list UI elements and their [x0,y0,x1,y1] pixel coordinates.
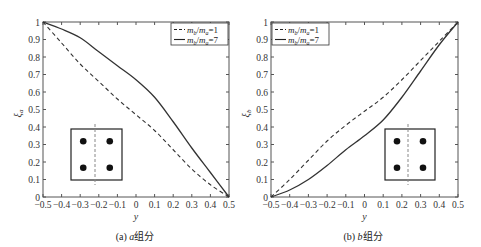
y-tick-label: 0.8 [28,53,40,63]
rebar-dot [80,164,87,171]
x-tick-label: −0.4 [281,200,298,210]
x-tick-label: 0.4 [204,200,216,210]
x-tick-label: 0 [362,200,367,210]
x-axis-label: y [133,211,139,222]
cross-section-inset [385,124,435,185]
y-tick-label: 0.6 [256,88,268,98]
x-tick-label: 0.1 [377,200,389,210]
y-tick-label: 0.2 [28,158,40,168]
rebar-dot [80,138,87,145]
x-tick-label: 0.2 [396,200,408,210]
y-axis-label: ξb [240,109,253,117]
y-tick-label: 0 [263,193,268,203]
rebar-dot [420,138,427,145]
x-tick-label: −0.1 [109,200,126,210]
y-tick-label: 0.8 [256,53,268,63]
y-tick-label: 0.9 [28,35,40,45]
y-tick-label: 0.3 [256,140,268,150]
panel-b: −0.5−0.4−0.3−0.2−0.100.10.20.30.40.500.1… [240,18,464,244]
x-tick-label: 0.3 [415,200,427,210]
panel-a: −0.5−0.4−0.3−0.2−0.100.10.20.30.40.500.1… [12,18,235,244]
x-tick-label: 0.5 [223,200,235,210]
y-tick-label: 0.4 [256,123,268,133]
x-tick-label: −0.2 [318,200,335,210]
rebar-dot [106,164,113,171]
y-axis-label: ξa [12,109,25,117]
y-tick-label: 0.4 [28,123,40,133]
series-line-dashed [271,22,458,197]
rebar-dot [106,138,113,145]
x-tick-label: −0.2 [90,200,107,210]
legend: mb/ma=1mb/ma=7 [272,23,329,46]
x-tick-label: 0.2 [167,200,179,210]
x-tick-label: 0.1 [149,200,161,210]
inset-square [71,129,122,180]
chart-figure: −0.5−0.4−0.3−0.2−0.100.10.20.30.40.500.1… [0,0,481,247]
rebar-dot [394,138,401,145]
y-tick-label: 1 [263,18,268,28]
x-tick-label: 0.3 [186,200,198,210]
panel-caption: (a) a组分 [116,230,155,243]
y-tick-label: 0 [35,193,40,203]
x-tick-label: −0.3 [72,200,89,210]
inset-square [385,129,435,180]
x-tick-label: 0.5 [452,200,464,210]
y-tick-label: 0.6 [28,88,40,98]
y-tick-label: 0.5 [28,105,40,115]
y-tick-label: 0.9 [256,35,268,45]
y-tick-label: 0.7 [28,70,40,80]
x-axis-label: y [361,211,367,222]
x-tick-label: 0.4 [433,200,445,210]
legend-label-2: mb/ma=7 [187,35,219,46]
y-tick-label: 0.7 [256,70,268,80]
x-tick-label: −0.4 [53,200,70,210]
cross-section-inset [71,124,122,185]
y-tick-label: 0.1 [28,175,40,185]
y-tick-label: 0.5 [256,105,268,115]
rebar-dot [420,164,427,171]
y-tick-label: 0.2 [256,158,268,168]
x-tick-label: −0.1 [337,200,354,210]
x-tick-label: −0.3 [300,200,317,210]
legend: mb/ma=1mb/ma=7 [171,23,228,46]
panel-caption: (b) b组分 [343,230,382,243]
x-tick-label: 0 [134,200,139,210]
y-tick-label: 1 [35,18,40,28]
legend-label-2: mb/ma=7 [288,35,320,46]
y-tick-label: 0.1 [256,175,268,185]
rebar-dot [394,164,401,171]
y-tick-label: 0.3 [28,140,40,150]
